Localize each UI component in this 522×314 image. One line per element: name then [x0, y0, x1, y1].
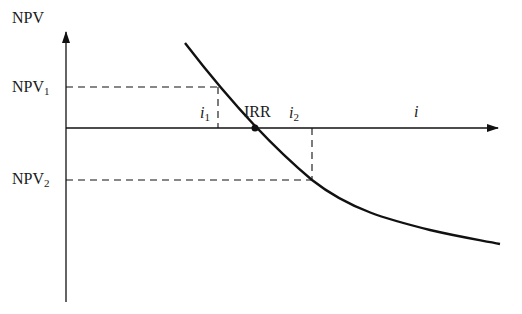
- i1-sub: 1: [204, 111, 210, 123]
- npv1-base: NPV: [12, 78, 44, 95]
- npv2-base: NPV: [12, 170, 44, 187]
- npv1-sub: 1: [44, 85, 50, 97]
- npv-curve: [185, 43, 500, 244]
- i1-label: i1: [200, 105, 210, 121]
- npv2-sub: 2: [44, 177, 50, 189]
- i2-label: i2: [289, 105, 299, 121]
- guide-lines: [66, 87, 312, 180]
- irr-point: [252, 125, 259, 132]
- i2-sub: 2: [293, 111, 299, 123]
- y-axis-label: NPV: [12, 10, 44, 26]
- irr-label: IRR: [244, 104, 271, 120]
- irr-diagram: NPV NPV1 NPV2 i1 IRR i2 i: [0, 0, 522, 314]
- x-axis-label: i: [414, 104, 418, 120]
- npv1-label: NPV1: [12, 79, 50, 95]
- diagram-graphics: [0, 0, 522, 314]
- npv2-label: NPV2: [12, 171, 50, 187]
